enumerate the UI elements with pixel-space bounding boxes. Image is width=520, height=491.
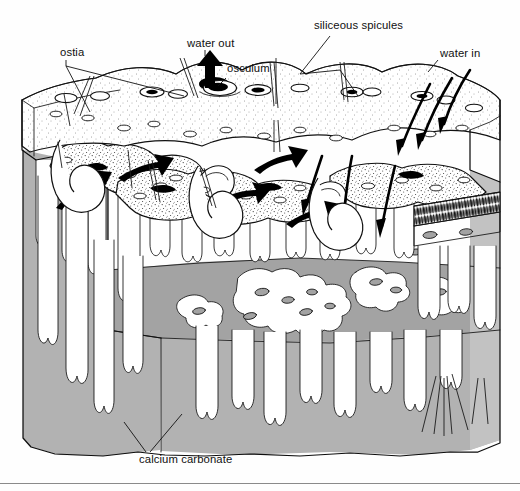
label-ostia: ostia [60,46,85,58]
label-calcium-carbonate: calcium carbonate [139,453,232,465]
label-siliceous-spicules: siliceous spicules [314,19,403,31]
label-osculum: osculum [227,62,270,74]
boring-sponge-diagram: ostia water out osculum siliceous spicul… [0,0,520,491]
label-water-in: water in [439,47,480,59]
page-divider-rule [0,483,520,484]
label-water-out: water out [186,37,235,49]
figure-root: ostia water out osculum siliceous spicul… [0,0,520,491]
